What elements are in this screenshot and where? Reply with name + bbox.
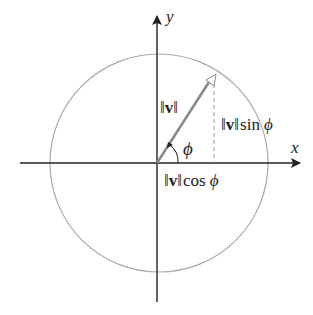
angle-arc [170, 145, 178, 163]
norm-v-cos-phi-label: ‖v‖cosϕ [164, 171, 219, 190]
norm-v-sin-phi-label: ‖v‖sinϕ [221, 115, 273, 134]
y-axis-label: y [164, 7, 174, 26]
vector-diagram: y x ‖v‖ ϕ ‖v‖sinϕ ‖v‖cosϕ [0, 0, 313, 315]
x-axis-label: x [290, 138, 299, 157]
norm-v-label: ‖v‖ [160, 98, 178, 117]
phi-label: ϕ [183, 138, 193, 159]
